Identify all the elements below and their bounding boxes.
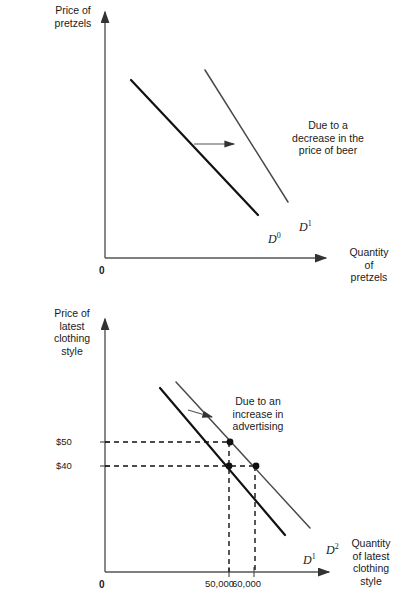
quantity-tick-label-60000: 60,000 [232, 578, 280, 589]
equilibrium-point-40-60000 [253, 463, 260, 470]
price-tick-label-50: $50 [56, 436, 96, 447]
curve-label-d2-superscript: 2 [335, 542, 339, 551]
origin-label-figure-1: 0 [99, 265, 105, 276]
annotation-figure-2: Due to anincrease inadvertising [218, 395, 298, 433]
origin-label-figure-2: 0 [99, 579, 105, 590]
curve-label-d0-base: D [268, 232, 277, 246]
curve-label-d2-figure-2: D2 [308, 527, 339, 573]
textbook-figure-page: Price ofpretzels Quantityofpretzels 0 Du… [0, 0, 404, 599]
figure-demand-shift-clothing: Price oflatestclothingstyle Quantityof l… [0, 300, 404, 599]
shift-arrow-figure-2 [188, 410, 212, 417]
demand-curve-d0 [131, 80, 258, 215]
equilibrium-point-40-50000 [226, 463, 233, 470]
x-axis-label-figure-2: Quantityof latestclothingstyle [340, 537, 402, 587]
annotation-figure-1: Due to adecrease in theprice of beer [258, 119, 398, 157]
y-axis-label-figure-2: Price oflatestclothingstyle [40, 307, 104, 357]
curve-label-d1-base: D [299, 220, 308, 234]
curve-label-d0-figure-1: D0 [250, 216, 281, 262]
price-tick-label-40: $40 [56, 460, 96, 471]
curve-label-d1-superscript: 1 [308, 219, 312, 228]
y-axis-label-figure-1: Price ofpretzels [42, 4, 104, 29]
curve-label-d1-figure-1: D1 [281, 204, 312, 250]
curve-label-d2-base: D [326, 543, 335, 557]
figure-demand-shift-pretzels: Price ofpretzels Quantityofpretzels 0 Du… [0, 0, 404, 300]
equilibrium-point-50-50000 [227, 439, 234, 446]
x-axis-label-figure-1: Quantityofpretzels [338, 246, 400, 284]
